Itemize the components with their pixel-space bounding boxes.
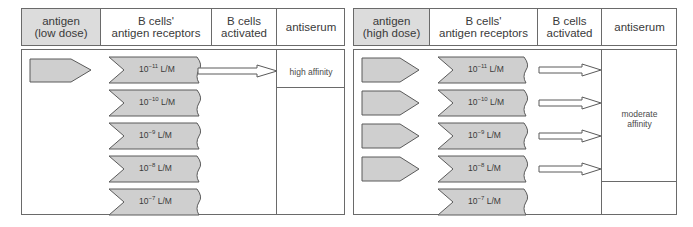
antigen-shape-icon bbox=[362, 157, 419, 181]
low-dose-graphics bbox=[22, 50, 346, 216]
receptor-affinity-label: 10−7 L/M bbox=[139, 195, 172, 206]
receptor-affinity-label: 10−8 L/M bbox=[468, 162, 501, 173]
antigen-shape-icon bbox=[30, 59, 91, 82]
receptor-affinity-label: 10−7 L/M bbox=[468, 195, 501, 206]
receptor-affinity-label: 10−11 L/M bbox=[139, 63, 175, 74]
activation-arrow-icon bbox=[198, 65, 277, 77]
activation-arrow-icon bbox=[539, 163, 601, 175]
activation-arrow-icon bbox=[539, 64, 601, 76]
high-dose-header-row: antigen (high dose) B cells' antigen rec… bbox=[353, 8, 677, 46]
high-dose-graphics bbox=[354, 50, 678, 216]
activation-arrow-icon bbox=[539, 130, 601, 142]
low-dose-header-row: antigen (low dose) B cells' antigen rece… bbox=[21, 8, 345, 46]
header-antigen-low-dose: antigen (low dose) bbox=[22, 9, 101, 45]
header-antiserum: antiserum bbox=[277, 9, 345, 45]
antigen-shape-icon bbox=[362, 91, 419, 115]
header-activated: B cells activated bbox=[212, 9, 277, 45]
header-receptors: B cells' antigen receptors bbox=[430, 9, 538, 45]
high-dose-panel: antigen (high dose) B cells' antigen rec… bbox=[353, 8, 677, 215]
antigen-shapes bbox=[362, 58, 419, 181]
receptor-affinity-label: 10−10 L/M bbox=[139, 96, 175, 107]
activation-arrow-icon bbox=[539, 97, 601, 109]
header-receptors: B cells' antigen receptors bbox=[101, 9, 212, 45]
header-antiserum: antiserum bbox=[602, 9, 677, 45]
low-dose-panel: antigen (low dose) B cells' antigen rece… bbox=[21, 8, 345, 215]
antigen-shape-icon bbox=[362, 124, 419, 148]
header-antigen-high-dose: antigen (high dose) bbox=[354, 9, 430, 45]
receptor-affinity-label: 10−9 L/M bbox=[139, 129, 172, 140]
receptor-affinity-label: 10−9 L/M bbox=[468, 129, 501, 140]
low-dose-body: high affinity 10−11 L/M10−10 L/M10−9 L/M… bbox=[21, 49, 345, 215]
receptor-affinity-label: 10−11 L/M bbox=[468, 63, 504, 74]
receptor-affinity-label: 10−10 L/M bbox=[468, 96, 504, 107]
receptor-affinity-label: 10−8 L/M bbox=[139, 162, 172, 173]
antigen-shape-icon bbox=[362, 58, 419, 82]
activation-arrows bbox=[539, 64, 601, 175]
high-dose-body: moderate affinity 10−11 L/M10−10 L/M10−9… bbox=[353, 49, 677, 215]
header-activated: B cells activated bbox=[538, 9, 602, 45]
